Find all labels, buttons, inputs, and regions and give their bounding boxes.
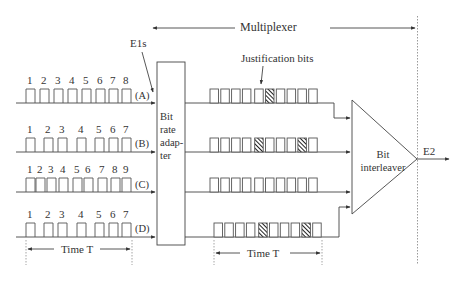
bit-number: 2 <box>45 124 51 135</box>
bit-number: 3 <box>48 164 54 175</box>
e1s-label: E1s <box>130 38 147 49</box>
bit-number: 1 <box>27 164 33 175</box>
bit-number: 6 <box>110 209 116 220</box>
time-t-left-label: Time T <box>61 244 93 255</box>
bit-number: 5 <box>96 209 102 220</box>
bit-number: 2 <box>41 75 47 86</box>
bit-number: 7 <box>123 209 129 220</box>
time-t-right-label: Time T <box>247 248 279 259</box>
interleaver-line-1: Bit <box>357 148 409 161</box>
e2-label: E2 <box>423 146 435 157</box>
adapter-line-4: ter <box>160 149 183 162</box>
channel-label-b: (B) <box>135 139 149 150</box>
bit-number: 9 <box>123 164 129 175</box>
adapter-line-2: rate <box>160 123 183 136</box>
bit-number: 6 <box>97 75 103 86</box>
justification-pointer-arrow <box>261 66 263 84</box>
e1s-pointer-arrow <box>142 52 153 92</box>
bit-number: 8 <box>112 164 118 175</box>
bit-number: 5 <box>83 75 89 86</box>
channel-label-c: (C) <box>135 180 149 191</box>
justification-bits-label: Justification bits <box>241 53 313 64</box>
interleaver-line-2: interleaver <box>357 161 409 174</box>
bit-number: 4 <box>60 164 66 175</box>
multiplexer-diagram <box>0 0 466 282</box>
bit-number: 2 <box>37 164 43 175</box>
bit-number: 6 <box>110 124 116 135</box>
multiplexer-label: Multiplexer <box>240 21 297 33</box>
adapted-pulse-trains <box>181 89 322 237</box>
bit-number: 7 <box>99 164 105 175</box>
adapter-line-1: Bit <box>160 110 183 123</box>
bit-number: 5 <box>96 124 102 135</box>
bit-number: 4 <box>69 75 75 86</box>
bit-number: 3 <box>59 124 65 135</box>
bit-number: 3 <box>55 75 61 86</box>
bit-number: 1 <box>27 209 33 220</box>
bit-rate-adapter-label: Bit rate adap- ter <box>160 110 183 162</box>
bit-number: 2 <box>45 209 51 220</box>
bit-interleaver-label: Bit interleaver <box>357 148 409 174</box>
bit-number: 1 <box>27 124 33 135</box>
bit-number: 3 <box>59 209 65 220</box>
channel-label-d: (D) <box>135 224 150 235</box>
bit-number: 7 <box>110 75 116 86</box>
bit-number: 8 <box>123 75 129 86</box>
bit-number: 4 <box>78 124 84 135</box>
bit-number: 7 <box>123 124 129 135</box>
bit-number: 6 <box>85 164 91 175</box>
channel-label-a: (A) <box>135 91 150 102</box>
bit-number: 4 <box>78 209 84 220</box>
bit-number: 5 <box>74 164 80 175</box>
bit-number: 1 <box>27 75 33 86</box>
adapter-line-3: adap- <box>160 136 183 149</box>
interleaver-input-lines <box>318 103 350 237</box>
